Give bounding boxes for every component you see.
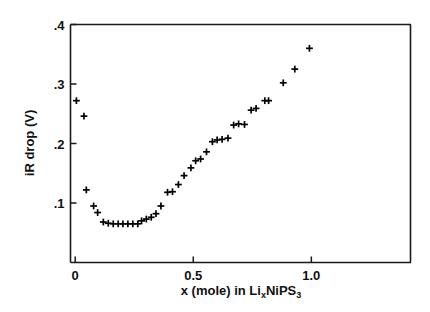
x-axis-title-prefix: x (mole) in Li: [181, 283, 261, 298]
data-point-marker: [181, 172, 188, 179]
x-axis-tick-labels: 00.51.0: [72, 268, 321, 283]
x-axis-title: x (mole) in LixNiPS3: [181, 283, 302, 300]
data-point-marker: [153, 210, 160, 217]
data-point-marker: [219, 136, 226, 143]
y-tick-label: .2: [54, 137, 65, 152]
data-point-marker: [265, 97, 272, 104]
figure-panel: .1.2.3.4 00.51.0 iR drop (V) x (mole) in…: [0, 0, 430, 312]
data-point-marker: [203, 148, 210, 155]
x-axis-title-mid: NiPS: [266, 283, 297, 298]
y-tick-label: .4: [54, 18, 66, 33]
x-axis-title-sub-3: 3: [296, 290, 301, 300]
x-tick-label: 0: [72, 268, 79, 283]
data-point-marker: [90, 203, 97, 210]
data-point-marker: [169, 188, 176, 195]
ir-drop-scatter-chart: .1.2.3.4 00.51.0 iR drop (V) x (mole) in…: [0, 0, 430, 312]
data-point-marker: [235, 120, 242, 127]
data-point-marker: [81, 113, 88, 120]
y-tick-label: .3: [54, 77, 65, 92]
data-point-marker: [230, 122, 237, 129]
data-point-marker: [158, 203, 165, 210]
plot-frame: [71, 25, 412, 263]
x-tick-label: 1.0: [302, 268, 320, 283]
y-axis-ticks: [71, 25, 77, 204]
y-axis-title: iR drop (V): [22, 110, 37, 176]
data-point-marker: [291, 66, 298, 73]
data-point-marker: [73, 97, 80, 104]
y-tick-label: .1: [54, 196, 65, 211]
x-axis-ticks: [75, 257, 311, 263]
data-point-marker: [225, 135, 232, 142]
y-axis-tick-labels: .1.2.3.4: [54, 18, 66, 212]
data-point-marker: [83, 187, 90, 194]
x-tick-label: 0.5: [184, 268, 202, 283]
data-point-marker: [241, 121, 248, 128]
data-point-marker: [306, 45, 313, 52]
data-point-marker: [175, 181, 182, 188]
data-point-marker: [100, 219, 107, 226]
data-point-marker: [280, 79, 287, 86]
data-point-marker: [94, 209, 101, 216]
data-point-group: [73, 45, 313, 227]
data-point-marker: [188, 164, 195, 171]
